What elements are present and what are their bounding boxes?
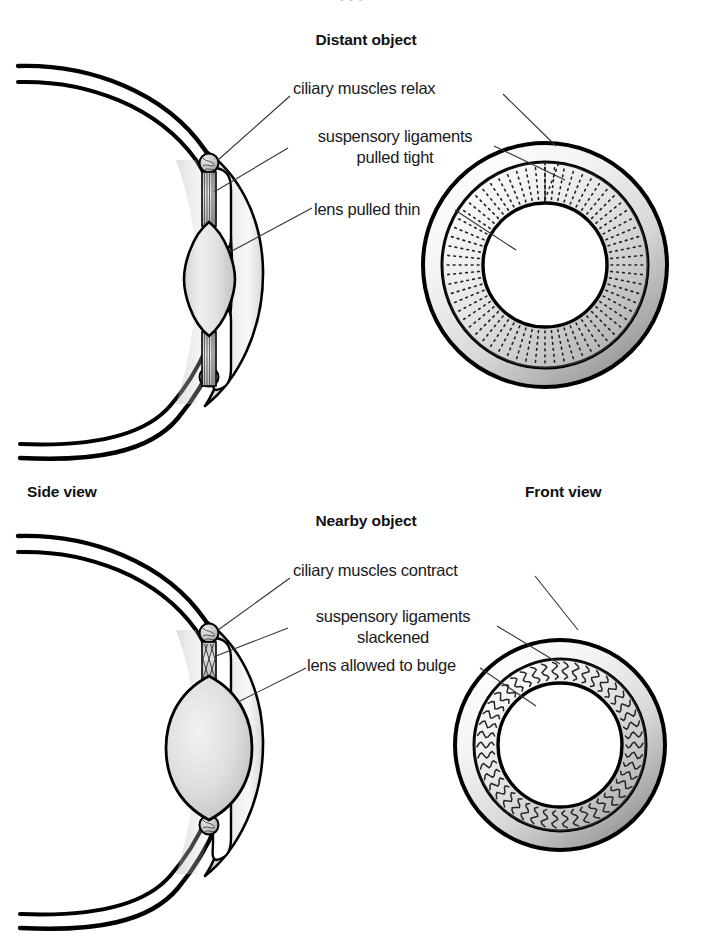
label-line-1: suspensory ligaments xyxy=(318,126,473,147)
label-line-1: suspensory ligaments xyxy=(316,606,471,627)
lens-opening-large xyxy=(498,683,622,807)
figure-canvas: · · · xyxy=(0,0,703,936)
caption-front-view: Front view xyxy=(525,483,602,501)
label-suspensory-ligaments-nearby: suspensory ligaments slackened xyxy=(316,606,471,648)
panel-distant-front-view xyxy=(423,143,667,387)
label-line-2: pulled tight xyxy=(318,147,473,168)
lens-opening-small xyxy=(483,203,607,327)
panel-nearby-side-view xyxy=(18,536,263,929)
panel-title-distant: Distant object xyxy=(315,31,416,49)
ciliary-muscle-top xyxy=(200,154,219,173)
label-suspensory-ligaments-distant: suspensory ligaments pulled tight xyxy=(318,126,473,168)
panel-nearby-front-view xyxy=(455,640,665,850)
label-ciliary-muscles-distant: ciliary muscles relax xyxy=(293,78,435,98)
suspensory-ligaments-taut-bottom xyxy=(202,332,216,386)
label-ciliary-muscles-nearby: ciliary muscles contract xyxy=(293,560,458,580)
label-lens-nearby: lens allowed to bulge xyxy=(307,655,456,675)
label-lens-distant: lens pulled thin xyxy=(314,199,420,219)
ciliary-muscle-contracted-top xyxy=(200,624,219,643)
label-line-2: slackened xyxy=(316,627,471,648)
panel-distant-side-view xyxy=(18,66,263,459)
panel-title-nearby: Nearby object xyxy=(315,512,416,530)
caption-side-view: Side view xyxy=(27,483,97,501)
suspensory-ligaments-taut-top xyxy=(202,172,216,226)
suspensory-ligaments-slack-top xyxy=(202,642,216,680)
